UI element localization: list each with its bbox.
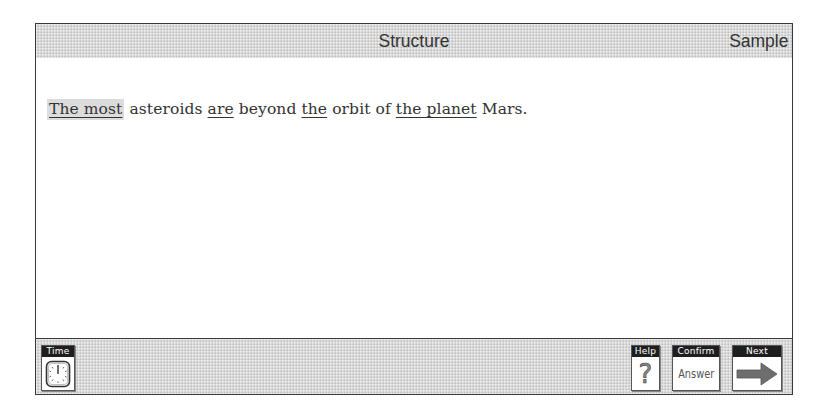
test-window: Structure Sample The most asteroids are … (35, 23, 793, 395)
next-button[interactable]: Next (732, 345, 782, 391)
clock-icon (45, 360, 71, 388)
confirm-answer-button[interactable]: Confirm Answer (672, 345, 720, 391)
question-mark-icon: ? (639, 361, 653, 387)
answer-option-b[interactable]: are (208, 100, 234, 118)
answer-option-a[interactable]: The most (47, 99, 124, 120)
sentence-text: asteroids (124, 100, 207, 118)
toolbar: Time (36, 338, 792, 394)
section-title: Structure (66, 30, 762, 52)
next-label: Next (733, 346, 781, 357)
sentence-text: orbit of (327, 100, 396, 118)
answer-label: Answer (678, 367, 714, 381)
question-area: The most asteroids are beyond the orbit … (36, 58, 792, 338)
question-sentence: The most asteroids are beyond the orbit … (49, 100, 528, 118)
section-label: Sample (729, 30, 788, 52)
sentence-text: Mars. (477, 100, 528, 118)
answer-option-d[interactable]: the planet (396, 100, 477, 118)
help-label: Help (632, 346, 659, 357)
arrow-right-icon (735, 360, 779, 388)
confirm-label: Confirm (673, 346, 719, 357)
title-bar: Structure Sample (36, 24, 792, 58)
help-button[interactable]: Help ? (631, 345, 660, 391)
time-button[interactable]: Time (41, 345, 75, 391)
answer-option-c[interactable]: the (301, 100, 327, 118)
sentence-text: beyond (234, 100, 302, 118)
time-label: Time (42, 346, 74, 357)
